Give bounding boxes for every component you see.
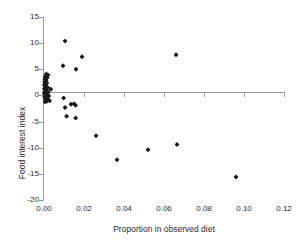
y-tick-mark xyxy=(39,17,43,18)
y-tick-mark xyxy=(39,95,43,96)
x-tick-mark xyxy=(284,93,285,97)
x-tick-label: 0.04 xyxy=(107,205,141,213)
x-tick-label: 0.08 xyxy=(187,205,221,213)
y-tick-mark xyxy=(39,43,43,44)
y-tick-mark xyxy=(39,200,43,201)
y-tick-mark xyxy=(39,174,43,175)
x-tick-label: 0.02 xyxy=(67,205,101,213)
scatter-chart-figure: 151050-5-10-15-20 0.000.020.040.060.080.… xyxy=(0,0,296,245)
x-axis-title: Proportion in observed diet xyxy=(44,224,284,234)
x-tick-label: 0.06 xyxy=(147,205,181,213)
y-axis-title-wrapper: Food interest index xyxy=(2,38,14,168)
y-tick-mark xyxy=(39,69,43,70)
y-tick-mark xyxy=(39,122,43,123)
y-axis-title: Food interest index xyxy=(17,73,27,213)
x-tick-label: 0.10 xyxy=(227,205,261,213)
x-tick-label: 0.12 xyxy=(267,205,296,213)
x-tick-label: 0.00 xyxy=(27,205,61,213)
y-tick-mark xyxy=(39,148,43,149)
plot-area xyxy=(44,17,284,200)
y-tick-label: 10 xyxy=(17,39,39,47)
y-tick-label: 15 xyxy=(17,13,39,21)
